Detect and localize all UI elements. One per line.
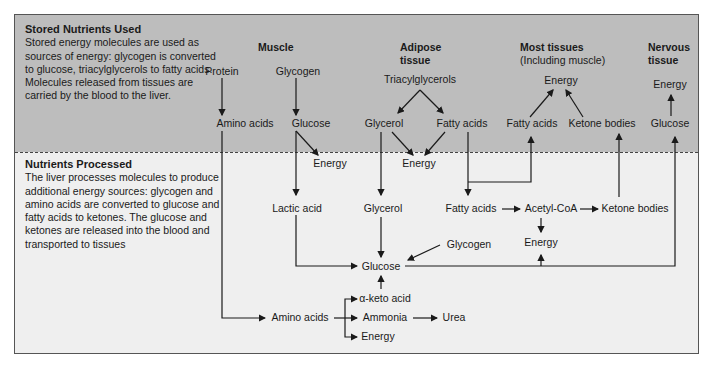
node-glucose-nervous: Glucose [651,117,690,129]
node-acetyl-coa: Acetyl-CoA [525,202,578,214]
node-fatty-acids-adipose: Fatty acids [437,117,488,129]
node-ketone-bodies-most-tissues: Ketone bodies [568,117,635,129]
node-lactic-acid: Lactic acid [272,202,322,214]
node-energy-muscle: Energy [313,157,346,169]
node-glycerol-liver: Glycerol [364,202,403,214]
node-protein: Protein [205,65,238,77]
node-amino-acids-liver: Amino acids [271,311,328,323]
node-alpha-keto-acid: α-keto acid [359,292,411,304]
node-fatty-acids-most-tissues: Fatty acids [507,117,558,129]
node-glucose-muscle: Glucose [292,117,331,129]
node-ketone-bodies-liver: Ketone bodies [601,202,668,214]
node-energy-most-tissues: Energy [544,74,577,86]
node-urea: Urea [443,311,466,323]
node-glucose-liver: Glucose [362,260,401,272]
pathway-arrows [0,0,708,367]
node-energy-nervous: Energy [653,78,686,90]
node-glycogen-liver: Glycogen [447,238,491,250]
node-energy-liver: Energy [524,236,557,248]
node-energy-amino: Energy [361,330,394,342]
node-energy-adipose: Energy [402,157,435,169]
node-glycerol-adipose: Glycerol [365,117,404,129]
node-fatty-acids-liver: Fatty acids [446,202,497,214]
node-glycogen-muscle: Glycogen [276,65,320,77]
node-ammonia: Ammonia [363,311,407,323]
node-amino-acids-muscle: Amino acids [216,117,273,129]
node-triacylglycerols: Triacylglycerols [384,73,456,85]
